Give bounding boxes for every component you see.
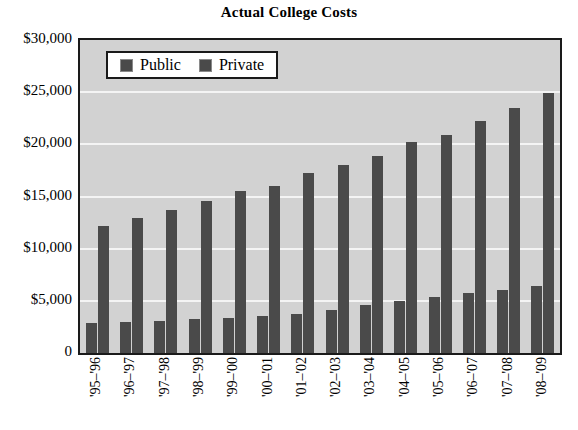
bar-group (497, 40, 520, 353)
y-tick-label: $15,000 (23, 186, 72, 203)
chart-figure: Actual College Costs 0$5,000$10,000$15,0… (0, 0, 578, 430)
bar-public (531, 286, 542, 353)
x-tick-label: '00–'01 (260, 357, 276, 397)
x-tick-label: '97–'98 (157, 357, 173, 397)
bar-public (120, 322, 131, 353)
bar-private (235, 191, 246, 353)
bar-public (360, 305, 371, 354)
bar-private (441, 135, 452, 353)
y-tick-label: 0 (65, 343, 73, 360)
x-tick-label: '03–'04 (362, 357, 378, 397)
bar-private (98, 226, 109, 353)
bar-group (360, 40, 383, 353)
bar-public (429, 297, 440, 353)
bar-public (497, 290, 508, 353)
bar-private (303, 173, 314, 353)
chart-legend: PublicPrivate (106, 51, 278, 79)
bar-public (257, 316, 268, 353)
bar-private (166, 210, 177, 353)
x-tick-label: '02–'03 (328, 357, 344, 397)
y-tick-label: $25,000 (23, 82, 72, 99)
x-tick-label: '99–'00 (225, 357, 241, 397)
legend-swatch-icon (120, 59, 133, 72)
x-tick-label: '98–'99 (191, 357, 207, 397)
bar-group (463, 40, 486, 353)
x-tick-label: '08–'09 (534, 357, 550, 397)
bar-public (189, 319, 200, 353)
bar-group (531, 40, 554, 353)
legend-entry-private: Private (199, 57, 264, 73)
bar-private (132, 218, 143, 353)
x-tick-label: '01–'02 (294, 357, 310, 397)
bar-private (201, 201, 212, 353)
bar-private (475, 121, 486, 353)
x-tick-label: '07–'08 (500, 357, 516, 397)
bar-group (394, 40, 417, 353)
y-tick-label: $30,000 (23, 30, 72, 47)
bar-group (429, 40, 452, 353)
bar-private (338, 165, 349, 353)
legend-label: Private (219, 57, 264, 73)
y-axis: 0$5,000$10,000$15,000$20,000$25,000$30,0… (0, 38, 72, 355)
bar-public (86, 323, 97, 353)
chart-title: Actual College Costs (0, 4, 578, 21)
bar-private (406, 142, 417, 353)
bar-private (543, 93, 554, 353)
bar-public (154, 321, 165, 353)
x-tick-label: '95–'96 (88, 357, 104, 397)
bar-group (189, 40, 212, 353)
bar-group (223, 40, 246, 353)
bar-public (463, 293, 474, 353)
bar-public (326, 310, 337, 353)
x-tick-label: '06–'07 (465, 357, 481, 397)
legend-swatch-icon (199, 59, 212, 72)
y-tick-label: $10,000 (23, 238, 72, 255)
bar-group (154, 40, 177, 353)
bar-private (509, 108, 520, 353)
bar-private (269, 186, 280, 353)
bar-public (394, 301, 405, 353)
x-tick-label: '96–'97 (122, 357, 138, 397)
bar-group (257, 40, 280, 353)
bar-group (86, 40, 109, 353)
bar-group (120, 40, 143, 353)
x-tick-label: '05–'06 (431, 357, 447, 397)
legend-label: Public (140, 57, 181, 73)
y-tick-label: $5,000 (31, 290, 72, 307)
bar-public (291, 314, 302, 353)
legend-entry-public: Public (120, 57, 181, 73)
bar-private (372, 156, 383, 353)
bar-group (291, 40, 314, 353)
x-axis: '95–'96'96–'97'97–'98'98–'99'99–'00'00–'… (78, 357, 562, 429)
y-tick-label: $20,000 (23, 134, 72, 151)
x-tick-label: '04–'05 (397, 357, 413, 397)
bar-group (326, 40, 349, 353)
bars-layer (80, 40, 560, 353)
plot-area (78, 38, 562, 355)
bar-public (223, 318, 234, 353)
